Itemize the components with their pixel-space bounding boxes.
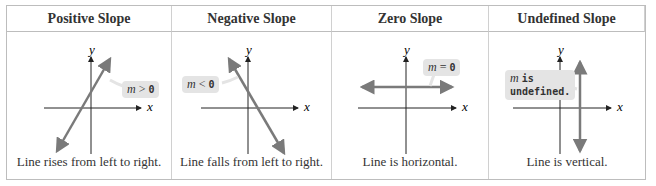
caption: Line is vertical. bbox=[489, 154, 645, 170]
header-positive-slope: Positive Slope bbox=[7, 6, 172, 32]
header-undefined-slope: Undefined Slope bbox=[489, 6, 645, 32]
header-zero-slope: Zero Slope bbox=[332, 6, 489, 32]
cell-undefined-slope: y x m isundefined. Line is vertical. bbox=[489, 32, 645, 179]
slope-bubble: m > 0 bbox=[122, 81, 159, 98]
x-axis-label: x bbox=[147, 99, 153, 115]
caption: Line falls from left to right. bbox=[172, 154, 331, 170]
y-axis-label: y bbox=[404, 42, 410, 58]
y-axis-label: y bbox=[246, 42, 252, 58]
cell-zero-slope: y x m = 0 Line is horizontal. bbox=[332, 32, 489, 179]
y-axis-label: y bbox=[89, 42, 95, 58]
cell-positive-slope: y x m > 0 Line rises from left to right. bbox=[7, 32, 172, 179]
header-negative-slope: Negative Slope bbox=[172, 6, 332, 32]
x-axis-label: x bbox=[462, 99, 468, 115]
caption: Line rises from left to right. bbox=[7, 154, 171, 170]
slope-bubble: m isundefined. bbox=[505, 70, 575, 100]
x-axis-label: x bbox=[617, 99, 623, 115]
x-axis-label: x bbox=[304, 99, 310, 115]
caption: Line is horizontal. bbox=[332, 154, 488, 170]
slope-bubble: m < 0 bbox=[182, 76, 219, 93]
slope-bubble: m = 0 bbox=[423, 59, 460, 76]
slope-table: Positive Slope Negative Slope Zero Slope… bbox=[6, 5, 646, 180]
y-axis-label: y bbox=[558, 42, 564, 58]
cell-negative-slope: y x m < 0 Line falls from left to right. bbox=[172, 32, 332, 179]
